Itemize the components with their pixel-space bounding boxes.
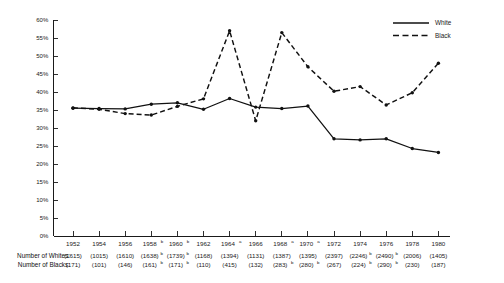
- y-tick-label: 10%: [36, 197, 49, 203]
- count-whites: (1638): [141, 252, 159, 259]
- data-point-white: [280, 107, 283, 110]
- count-blacks-superscript: b: [395, 260, 398, 265]
- count-whites: (1015): [90, 252, 108, 259]
- count-blacks-superscript: b: [161, 260, 164, 265]
- count-blacks: (101): [92, 261, 106, 268]
- data-point-black: [306, 65, 309, 68]
- y-tick-label: 40%: [36, 89, 49, 95]
- row-title-blacks: Number of Blacks:: [18, 261, 70, 268]
- chart-series-group: [71, 29, 440, 154]
- count-whites: (2246): [350, 252, 368, 259]
- line-chart: 0%5%10%15%20%25%30%35%40%45%50%55%60% 19…: [0, 0, 504, 283]
- count-whites-superscript: b: [161, 251, 164, 256]
- x-tick-label: 1978: [405, 240, 419, 247]
- data-point-black: [358, 85, 361, 88]
- data-point-white: [150, 103, 153, 106]
- count-blacks: (161): [142, 261, 156, 268]
- x-tick-label-superscript: a: [317, 239, 320, 244]
- data-point-black: [124, 112, 127, 115]
- count-whites: (2397): [325, 252, 343, 259]
- x-tick-label: 1962: [197, 240, 211, 247]
- data-point-black: [332, 90, 335, 93]
- x-tick-label: 1960: [169, 240, 183, 247]
- x-tick-label: 1958: [143, 240, 157, 247]
- x-tick-label: 1968: [273, 240, 287, 247]
- data-point-white: [358, 138, 361, 141]
- data-point-white: [124, 107, 127, 110]
- count-whites: (1131): [247, 252, 264, 259]
- count-whites: (1405): [429, 252, 447, 259]
- data-point-black: [437, 62, 440, 65]
- data-point-white: [202, 108, 205, 111]
- chart-figure: 0%5%10%15%20%25%30%35%40%45%50%55%60% 19…: [0, 0, 504, 283]
- y-tick-label: 20%: [36, 161, 49, 167]
- data-point-white: [332, 137, 335, 140]
- y-tick-label: 5%: [40, 215, 49, 221]
- y-axis: 0%5%10%15%20%25%30%35%40%45%50%55%60%: [36, 17, 58, 239]
- x-tick-label: 1964: [221, 240, 235, 247]
- count-blacks: (415): [222, 261, 236, 268]
- data-point-white: [176, 101, 179, 104]
- data-point-black: [150, 113, 153, 116]
- chart-legend: WhiteBlack: [393, 19, 452, 39]
- x-tick-label: 1952: [66, 240, 80, 247]
- data-point-white: [254, 105, 257, 108]
- data-point-black: [97, 108, 100, 111]
- count-blacks: (187): [431, 261, 445, 268]
- y-tick-label: 30%: [36, 125, 49, 131]
- count-whites-superscript: b: [369, 251, 372, 256]
- count-blacks: (280): [299, 261, 313, 268]
- count-blacks: (146): [118, 261, 132, 268]
- y-tick-label: 60%: [36, 17, 49, 23]
- count-blacks: (290): [377, 261, 391, 268]
- data-point-black: [71, 106, 74, 109]
- y-tick-label: 35%: [36, 107, 49, 113]
- x-tick-label: 1976: [379, 240, 393, 247]
- count-whites: (1615): [64, 252, 82, 259]
- x-tick-label-superscript: a: [291, 239, 294, 244]
- count-blacks: (171): [66, 261, 80, 268]
- count-blacks: (224): [351, 261, 365, 268]
- data-point-black: [202, 97, 205, 100]
- count-whites: (1395): [299, 252, 317, 259]
- data-point-white: [437, 151, 440, 154]
- count-whites-superscript: b: [395, 251, 398, 256]
- count-blacks: (283): [273, 261, 287, 268]
- count-blacks: (110): [197, 261, 211, 268]
- y-tick-label: 25%: [36, 143, 49, 149]
- x-tick-label-superscript: a: [239, 239, 242, 244]
- count-whites: (2490): [376, 252, 394, 259]
- x-tick-label: 1956: [118, 240, 132, 247]
- count-blacks: (171): [169, 261, 183, 268]
- count-blacks: (132): [248, 261, 262, 268]
- legend-label-black: Black: [435, 32, 451, 39]
- count-blacks: (230): [405, 261, 419, 268]
- y-tick-label: 15%: [36, 179, 49, 185]
- data-point-black: [280, 31, 283, 34]
- count-blacks-superscript: b: [291, 260, 294, 265]
- data-point-black: [411, 91, 414, 94]
- data-point-black: [254, 119, 257, 122]
- data-point-white: [411, 147, 414, 150]
- x-tick-label: 1974: [353, 240, 367, 247]
- data-point-white: [306, 104, 309, 107]
- x-axis: 1952195419561958b1960b19621964a19661968a…: [54, 231, 451, 247]
- count-blacks-superscript: b: [317, 260, 320, 265]
- x-tick-label: 1966: [249, 240, 263, 247]
- y-tick-label: 0%: [40, 233, 49, 239]
- x-tick-label: 1954: [92, 240, 106, 247]
- y-tick-label: 45%: [36, 71, 49, 77]
- count-whites: (1168): [195, 252, 212, 259]
- data-point-black: [385, 103, 388, 106]
- x-tick-label-superscript: b: [161, 239, 164, 244]
- count-whites: (1739): [167, 252, 185, 259]
- count-blacks-superscript: b: [187, 260, 190, 265]
- count-whites: (1394): [221, 252, 239, 259]
- x-tick-label: 1980: [432, 240, 446, 247]
- data-point-white: [228, 97, 231, 100]
- y-tick-label: 55%: [36, 35, 49, 41]
- count-blacks-superscript: b: [369, 260, 372, 265]
- data-point-white: [385, 137, 388, 140]
- count-blacks: (267): [327, 261, 341, 268]
- row-title-whites: Number of Whites:: [17, 252, 70, 259]
